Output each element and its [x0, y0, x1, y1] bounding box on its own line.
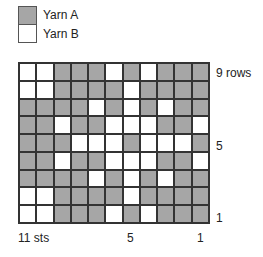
chart-cell — [71, 116, 88, 134]
chart-cell — [71, 152, 88, 170]
chart-cell — [88, 187, 105, 205]
chart-cell — [105, 99, 122, 117]
legend-label-yarn-b: Yarn B — [43, 27, 79, 41]
chart-cell — [105, 152, 122, 170]
chart-cell — [105, 81, 122, 99]
chart-cell — [140, 99, 157, 117]
chart-cell — [36, 134, 53, 152]
chart-cell — [54, 170, 71, 188]
chart-cell — [140, 116, 157, 134]
chart-cell — [192, 81, 209, 99]
chart-cell — [123, 134, 140, 152]
chart-cell — [157, 187, 174, 205]
chart-cell — [174, 63, 191, 81]
chart-cell — [157, 152, 174, 170]
chart-cell — [157, 205, 174, 223]
chart-cell — [123, 81, 140, 99]
chart-cell — [88, 170, 105, 188]
stitch-count-label: 11 sts — [18, 231, 49, 245]
chart-cell — [105, 134, 122, 152]
chart-cell — [157, 170, 174, 188]
chart-cell — [71, 205, 88, 223]
chart-cell — [19, 63, 36, 81]
chart-cell — [105, 187, 122, 205]
chart-cell — [123, 99, 140, 117]
chart-cell — [140, 134, 157, 152]
chart-cell — [157, 99, 174, 117]
chart-cell — [36, 63, 53, 81]
chart-cell — [192, 187, 209, 205]
legend-swatch-yarn-a — [18, 6, 37, 25]
chart-cell — [174, 99, 191, 117]
chart-cell — [71, 99, 88, 117]
legend-swatch-yarn-b — [18, 24, 37, 43]
chart-cell — [19, 187, 36, 205]
stitch-marker-1: 1 — [197, 231, 204, 245]
chart-cell — [174, 205, 191, 223]
chart-cell — [71, 63, 88, 81]
chart-cell — [192, 116, 209, 134]
chart-cell — [54, 81, 71, 99]
chart-cell — [140, 187, 157, 205]
stitch-marker-5: 5 — [127, 231, 134, 245]
chart-cell — [19, 99, 36, 117]
chart-cell — [71, 134, 88, 152]
chart-cell — [174, 187, 191, 205]
chart-cell — [157, 134, 174, 152]
chart-cell — [174, 81, 191, 99]
chart-cell — [140, 205, 157, 223]
row-marker-1: 1 — [216, 211, 223, 225]
chart-cell — [19, 170, 36, 188]
chart-cell — [54, 205, 71, 223]
chart-cell — [192, 205, 209, 223]
chart-cell — [174, 134, 191, 152]
chart-cell — [71, 170, 88, 188]
chart-cell — [54, 187, 71, 205]
chart-cell — [88, 81, 105, 99]
chart-cell — [123, 187, 140, 205]
chart-cell — [36, 187, 53, 205]
chart-cell — [123, 116, 140, 134]
colorwork-chart-grid — [18, 62, 210, 224]
chart-cell — [192, 170, 209, 188]
chart-cell — [140, 63, 157, 81]
chart-cell — [54, 152, 71, 170]
chart-cell — [174, 170, 191, 188]
chart-cell — [19, 205, 36, 223]
chart-cell — [174, 116, 191, 134]
chart-cell — [192, 134, 209, 152]
chart-cell — [71, 81, 88, 99]
chart-cell — [123, 205, 140, 223]
chart-cell — [88, 134, 105, 152]
chart-cell — [36, 152, 53, 170]
chart-cell — [157, 63, 174, 81]
chart-cell — [174, 152, 191, 170]
chart-cell — [157, 116, 174, 134]
chart-cell — [54, 99, 71, 117]
chart-cell — [36, 170, 53, 188]
legend-label-yarn-a: Yarn A — [43, 8, 78, 22]
chart-cell — [140, 81, 157, 99]
chart-cell — [36, 205, 53, 223]
chart-cell — [192, 152, 209, 170]
chart-cell — [19, 81, 36, 99]
chart-cell — [123, 63, 140, 81]
chart-cell — [36, 99, 53, 117]
chart-cell — [123, 152, 140, 170]
chart-cell — [123, 170, 140, 188]
chart-cell — [36, 116, 53, 134]
chart-cell — [105, 116, 122, 134]
chart-cell — [105, 170, 122, 188]
chart-cell — [88, 152, 105, 170]
chart-cell — [88, 116, 105, 134]
chart-cell — [105, 205, 122, 223]
chart-cell — [71, 187, 88, 205]
row-marker-5: 5 — [216, 139, 223, 153]
rows-count-label: 9 rows — [216, 66, 251, 80]
chart-cell — [19, 152, 36, 170]
chart-cell — [88, 205, 105, 223]
chart-cell — [88, 63, 105, 81]
chart-cell — [192, 99, 209, 117]
chart-cell — [88, 99, 105, 117]
chart-cell — [19, 134, 36, 152]
